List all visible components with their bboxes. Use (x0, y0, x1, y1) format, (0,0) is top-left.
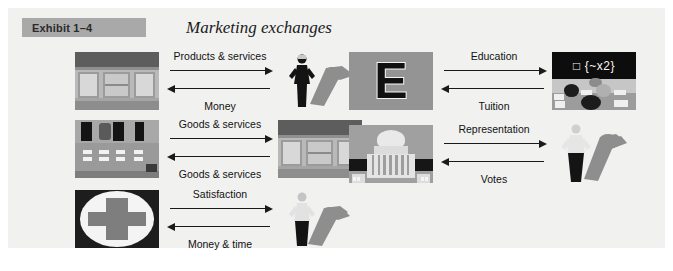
awning (75, 52, 159, 67)
exchange-row-retail-consumer: Products & services Money (75, 50, 355, 112)
forward-arrow-label: Representation (442, 123, 546, 135)
forward-arrow-line (170, 138, 270, 139)
forward-arrow-label: Products & services (168, 50, 272, 62)
exhibit-title: Marketing exchanges (186, 18, 332, 38)
desk (614, 100, 627, 107)
backward-arrow-label: Votes (442, 173, 546, 185)
desk (554, 94, 564, 100)
column (389, 155, 392, 175)
cross-horizontal (88, 212, 147, 226)
forward-arrow-head (265, 135, 273, 143)
woman-figure-image (280, 50, 355, 112)
arrow-group-hospital-patient: Satisfaction Money & time (168, 188, 272, 250)
forward-arrow-line (170, 70, 270, 71)
column (401, 155, 404, 175)
counter-slip (134, 150, 143, 153)
awning-edge (75, 67, 159, 70)
window-right (134, 72, 155, 99)
bank-counter-image (75, 120, 159, 178)
column (383, 155, 386, 175)
floor-box (146, 164, 157, 172)
backward-arrow-head (167, 223, 175, 231)
person-figure-image (554, 121, 629, 187)
arrow-group-wholesale-retail: Goods & services Goods & services (168, 118, 272, 180)
backward-arrow-label: Tuition (442, 100, 546, 112)
dark-panel-left (81, 122, 92, 141)
forward-arrow-line (444, 143, 544, 144)
forward-arrow-head (539, 140, 547, 148)
person-figure (554, 121, 629, 187)
wing-window (425, 177, 428, 181)
counter-slip (134, 157, 143, 160)
woman-figure-svg (280, 50, 355, 112)
forward-arrow-line (444, 70, 544, 71)
backward-arrow-line (170, 156, 270, 157)
capitol-building-image (349, 125, 433, 183)
desk (614, 90, 626, 95)
student-head (596, 84, 611, 97)
exchange-row-hospital-patient: Satisfaction Money & time (75, 188, 355, 250)
counter-lamp (99, 123, 111, 140)
window-left (281, 140, 302, 167)
letter-e-block-image: E (349, 52, 433, 110)
person-figure-svg (280, 188, 355, 250)
building-wing-right (417, 174, 430, 183)
column (395, 155, 398, 175)
forward-arrow-head (265, 205, 273, 213)
counter-slip (83, 150, 92, 153)
counter-slip (83, 157, 92, 160)
desk (555, 101, 565, 107)
woman-figure (280, 50, 355, 112)
forward-arrow-label: Satisfaction (168, 188, 272, 200)
exhibit-number-band: Exhibit 1–4 (22, 18, 146, 37)
letter-e-glyph: E (369, 59, 413, 103)
exhibit-panel: Exhibit 1–4 Marketing exchanges Products… (8, 8, 665, 248)
backward-arrow-head (441, 158, 449, 166)
arrow-group-retail-consumer: Products & services Money (168, 50, 272, 112)
backward-arrow-line (444, 161, 544, 162)
window-left (78, 72, 99, 99)
forward-arrow-line (170, 208, 270, 209)
sidewalk (75, 101, 159, 110)
forward-arrow-head (265, 67, 273, 75)
counter-slip (116, 157, 125, 160)
column (378, 155, 381, 175)
forward-arrow-label: Education (442, 50, 546, 62)
arrow-group-government-citizen: Representation Votes (442, 123, 546, 185)
column (372, 155, 375, 175)
counter-slip (99, 157, 108, 160)
wing-window (357, 177, 360, 181)
backward-arrow-line (444, 88, 544, 89)
door-line (308, 152, 331, 154)
wing-window (421, 177, 424, 181)
forward-arrow-head (539, 67, 547, 75)
door-line (105, 84, 128, 86)
exchange-row-government-citizen: Representation Votes (349, 121, 629, 187)
backward-arrow-label: Money (168, 100, 272, 112)
backward-arrow-head (167, 85, 175, 93)
person-figure-svg (554, 121, 629, 187)
counter-slip (99, 150, 108, 153)
person-figure-image (280, 188, 355, 250)
hospital-cross-image (75, 190, 159, 248)
exchange-row-wholesale-retail: Goods & services Goods & services (75, 118, 362, 180)
backward-arrow-label: Money & time (168, 238, 272, 250)
backward-arrow-line (170, 88, 270, 89)
forward-arrow-label: Goods & services (168, 118, 272, 130)
blackboard-text: □ {~x2} (552, 52, 636, 79)
backward-arrow-label: Goods & services (168, 168, 272, 180)
student-head (564, 84, 579, 97)
classroom-image: □ {~x2} (552, 52, 636, 110)
person-figure (280, 188, 355, 250)
desk (581, 90, 593, 95)
column (407, 155, 410, 175)
backward-arrow-head (441, 85, 449, 93)
backward-arrow-line (170, 226, 270, 227)
dark-panel-right (135, 122, 143, 141)
backward-arrow-head (167, 153, 175, 161)
student-head (581, 95, 601, 110)
exchange-row-school-students: E Education Tuition □ {~x2} (349, 50, 636, 112)
dark-panel-center (113, 122, 124, 141)
exhibit-number-label: Exhibit 1–4 (22, 22, 92, 34)
wing-window (353, 177, 356, 181)
